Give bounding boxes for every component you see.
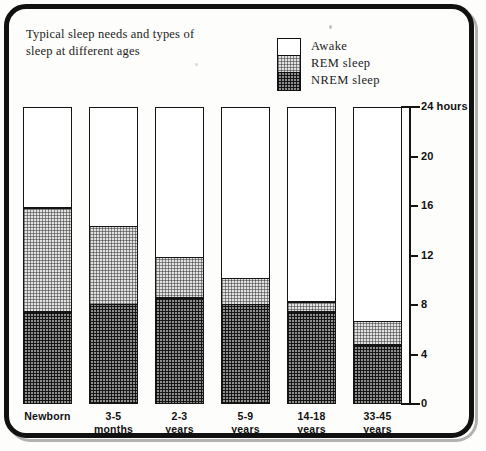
segment-divider-rem-nrem	[288, 311, 335, 313]
scan-speck	[195, 63, 198, 66]
category-label-line-1: 2-3	[144, 410, 216, 423]
segment-rem-sleep	[222, 278, 269, 304]
segment-divider-rem-nrem	[354, 344, 401, 346]
bar-2-3-years	[155, 107, 204, 404]
y-tick-label-16: 16	[421, 199, 433, 211]
segment-divider-rem-nrem	[156, 297, 203, 299]
bar-5-9-years	[221, 107, 270, 404]
segment-nrem-sleep	[354, 344, 401, 404]
category-label-line-1: 14-18	[276, 410, 348, 423]
segment-awake	[222, 108, 269, 278]
y-tick-16	[409, 205, 418, 207]
y-tick-0	[409, 403, 420, 405]
y-tick-label-20: 20	[421, 150, 433, 162]
chart-page: Typical sleep needs and types of sleep a…	[0, 0, 486, 451]
segment-divider-awake-rem	[90, 226, 137, 228]
category-label-2-3-years: 2-3years	[144, 410, 216, 435]
category-label-line-2: years	[144, 423, 216, 436]
category-label-line-1: 5-9	[210, 410, 282, 423]
segment-rem-sleep	[354, 321, 401, 345]
bar-3-5-months	[89, 107, 138, 404]
category-label-33-45-years: 33-45years	[342, 410, 414, 435]
category-label-line-1: 33-45	[342, 410, 414, 423]
y-tick-4	[409, 354, 418, 356]
bar-33-45-years	[353, 107, 402, 404]
y-tick-label-0: 0	[421, 397, 427, 409]
segment-divider-awake-rem	[24, 207, 71, 209]
scan-speck	[329, 25, 332, 29]
segment-rem-sleep	[90, 226, 137, 304]
segment-awake	[354, 108, 401, 321]
y-tick-label-8: 8	[421, 298, 427, 310]
segment-awake	[288, 108, 335, 301]
segment-nrem-sleep	[222, 304, 269, 404]
y-tick-label-12: 12	[421, 249, 433, 261]
segment-nrem-sleep	[24, 311, 71, 404]
category-label-newborn: Newborn	[12, 410, 84, 423]
category-label-line-2: months	[78, 423, 150, 436]
segment-divider-rem-nrem	[90, 304, 137, 306]
category-label-line-2: years	[342, 423, 414, 436]
category-label-line-1: Newborn	[12, 410, 84, 423]
segment-nrem-sleep	[288, 311, 335, 404]
y-tick-8	[409, 304, 418, 306]
segment-divider-rem-nrem	[222, 304, 269, 306]
segment-nrem-sleep	[156, 297, 203, 404]
segment-rem-sleep	[156, 257, 203, 298]
category-label-line-2: years	[210, 423, 282, 436]
category-label-14-18-years: 14-18years	[276, 410, 348, 435]
category-label-line-1: 3-5	[78, 410, 150, 423]
bar-14-18-years	[287, 107, 336, 404]
y-tick-label-4: 4	[421, 348, 427, 360]
y-tick-24	[409, 106, 420, 108]
y-tick-label-24: 24 hours	[421, 100, 468, 112]
y-tick-20	[409, 156, 418, 158]
segment-divider-awake-rem	[156, 257, 203, 259]
segment-awake	[156, 108, 203, 257]
segment-awake	[24, 108, 71, 207]
segment-divider-awake-rem	[288, 301, 335, 303]
category-label-3-5-months: 3-5months	[78, 410, 150, 435]
category-label-5-9-years: 5-9years	[210, 410, 282, 435]
segment-divider-awake-rem	[354, 321, 401, 323]
category-label-line-2: years	[276, 423, 348, 436]
y-tick-12	[409, 255, 418, 257]
segment-awake	[90, 108, 137, 226]
segment-nrem-sleep	[90, 304, 137, 404]
plot-area: 24 hours 20 16 12 8 4 0 Newborn3-5months…	[0, 0, 486, 451]
segment-divider-rem-nrem	[24, 311, 71, 313]
segment-rem-sleep	[24, 207, 71, 311]
bar-newborn	[23, 107, 72, 404]
segment-divider-awake-rem	[222, 278, 269, 280]
